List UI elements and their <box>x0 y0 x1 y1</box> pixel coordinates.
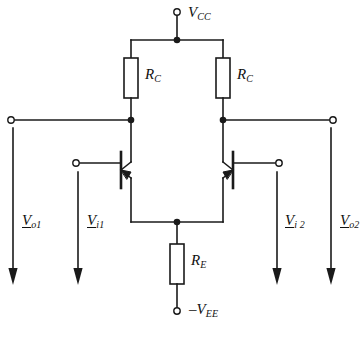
terminal-vcc[interactable] <box>174 9 180 15</box>
junction-dot-emitter-rail <box>174 219 181 226</box>
circuit-diagram-figure: VCC RC RC RE –VEE Vo1 Vi1 Vi 2 Vo2 <box>0 0 364 337</box>
arrow-head-vi1 <box>73 268 82 285</box>
terminal-input-2[interactable] <box>276 160 282 166</box>
wire-q1-collector-lead <box>121 162 131 170</box>
junction-dot-right-collector <box>220 117 227 124</box>
label-vi1: Vi1 <box>87 212 104 230</box>
label-vo1: Vo1 <box>22 212 42 230</box>
label-vi2: Vi 2 <box>285 212 305 230</box>
resistor-right-rc-body <box>216 58 230 98</box>
junction-dot-left-collector <box>128 117 135 124</box>
arrow-head-vo2 <box>326 268 335 285</box>
label-vcc: VCC <box>188 4 211 22</box>
label-resistor-emitter-re: RE <box>191 252 206 270</box>
label-vee: –VEE <box>189 301 218 319</box>
terminal-vee[interactable] <box>174 308 180 314</box>
wire-q2-collector-lead <box>223 162 233 170</box>
junction-dot-vcc-rail <box>174 37 181 44</box>
label-vo2: Vo2 <box>340 212 360 230</box>
terminal-output-2[interactable] <box>330 117 336 123</box>
arrow-head-vo1 <box>8 268 17 285</box>
terminal-input-1[interactable] <box>73 160 79 166</box>
terminal-output-1[interactable] <box>8 117 14 123</box>
resistor-left-rc-body <box>124 58 138 98</box>
schematic-canvas <box>0 0 364 337</box>
label-resistor-right-rc: RC <box>237 66 253 84</box>
label-resistor-left-rc: RC <box>145 66 161 84</box>
resistor-emitter-re-body <box>170 244 184 284</box>
arrow-head-vi2 <box>272 268 281 285</box>
